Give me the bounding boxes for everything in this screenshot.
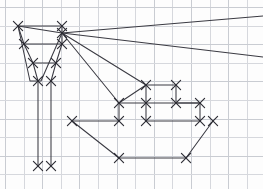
drawing-canvas — [0, 0, 263, 189]
shapes-layer — [18, 26, 213, 166]
ray-upper-right — [62, 16, 263, 33]
vertex-hull-deck-right — [208, 116, 217, 125]
perspective-ray-bundle — [62, 16, 263, 103]
line-drawing-svg — [0, 0, 263, 189]
ray-to-hull-step — [62, 33, 119, 103]
ray-to-cabin-peak — [62, 33, 146, 85]
hull-starboard-diagonal — [186, 121, 213, 158]
